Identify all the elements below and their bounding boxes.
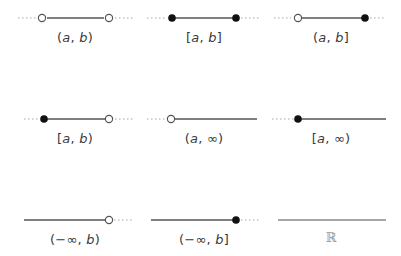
- interval-open-infinity: (a, ∞): [139, 101, 269, 151]
- closed-endpoint-icon: [168, 14, 176, 22]
- number-line: [266, 201, 396, 231]
- open-endpoint-icon: [294, 14, 301, 21]
- number-line: [266, 0, 396, 30]
- number-line: [10, 0, 140, 30]
- interval-label: [a, b]: [139, 30, 269, 45]
- closed-endpoint-icon: [232, 14, 240, 22]
- interval-closed-infinity: [a, ∞): [266, 101, 396, 151]
- interval-closed-closed: [a, b]: [139, 0, 269, 50]
- number-line: [139, 0, 269, 30]
- closed-endpoint-icon: [361, 14, 369, 22]
- open-endpoint-icon: [167, 115, 174, 122]
- interval-neginf-closed: (−∞, b]: [139, 201, 269, 251]
- interval-label: (−∞, b): [10, 232, 140, 247]
- closed-endpoint-icon: [294, 115, 302, 123]
- interval-label: (a, ∞): [139, 131, 269, 146]
- interval-label: ℝ: [266, 230, 396, 245]
- interval-label: (a, b]: [266, 30, 396, 45]
- open-endpoint-icon: [105, 14, 112, 21]
- interval-neginf-open: (−∞, b): [10, 201, 140, 251]
- interval-label: [a, ∞): [266, 131, 396, 146]
- interval-label: (−∞, b]: [139, 232, 269, 247]
- number-line: [139, 101, 269, 131]
- closed-endpoint-icon: [232, 216, 240, 224]
- interval-all-reals: ℝ: [266, 201, 396, 251]
- number-line: [10, 201, 140, 231]
- interval-label: (a, b): [10, 30, 140, 45]
- open-endpoint-icon: [105, 115, 112, 122]
- number-line: [266, 101, 396, 131]
- closed-endpoint-icon: [40, 115, 48, 123]
- interval-open-open: (a, b): [10, 0, 140, 50]
- number-line: [139, 201, 269, 231]
- interval-closed-open: [a, b): [10, 101, 140, 151]
- number-line: [10, 101, 140, 131]
- open-endpoint-icon: [38, 14, 45, 21]
- open-endpoint-icon: [105, 216, 112, 223]
- interval-label: [a, b): [10, 131, 140, 146]
- interval-open-closed: (a, b]: [266, 0, 396, 50]
